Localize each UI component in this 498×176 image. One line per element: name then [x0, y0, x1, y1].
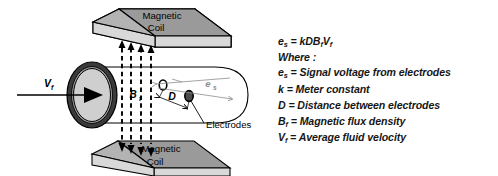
equation-rhs-tail: V [323, 35, 330, 47]
legend-definition-bf: = Magnetic flux density [291, 115, 406, 127]
legend-subscript-bf: f [286, 120, 288, 129]
magnetic-coil-top: Magnetic Coil [93, 9, 231, 47]
flux-density-symbol: B [129, 89, 136, 100]
legend-item-es: es = Signal voltage from electrodes [278, 65, 494, 81]
legend-subscript-es: s [284, 71, 288, 80]
coil-bottom-front-band [154, 168, 230, 176]
equation-equals: = [288, 35, 300, 47]
legend-item-bf: Bf = Magnetic flux density [278, 114, 494, 130]
coil-bottom-label-line1: Magnetic [142, 143, 181, 154]
electrodes-callout-label: Electrodes [206, 119, 252, 130]
legend-item-k: k = Meter constant [278, 82, 494, 98]
legend-definition-es: = Signal voltage from electrodes [291, 66, 451, 78]
flux-arrow-up-3 [138, 44, 145, 52]
legend-symbol-vf: V [278, 131, 285, 143]
distance-symbol: D [168, 90, 176, 102]
coil-top-label-line2: Coil [148, 22, 165, 33]
equation-line: es = kDBfVf [278, 34, 494, 50]
magnetic-coil-bottom: Magnetic Coil [92, 141, 230, 176]
where-label: Where : [278, 50, 494, 65]
legend-symbol-d: D [278, 99, 286, 111]
signal-subscript: s [213, 84, 217, 91]
legend-definition-vf: = Average fluid velocity [290, 131, 406, 143]
equation-rhs-sub1: f [320, 40, 322, 49]
legend-subscript-vf: f [285, 136, 287, 145]
flux-arrow-up-1 [119, 40, 126, 48]
legend-item-vf: Vf = Average fluid velocity [278, 130, 494, 146]
signal-symbol: e [205, 78, 211, 89]
legend-symbol-es: e [278, 66, 284, 78]
legend-symbol-bf: B [278, 115, 286, 127]
flux-arrow-up-2 [128, 42, 135, 50]
legend-definition-d: = Distance between electrodes [288, 99, 440, 111]
legend-item-d: D = Distance between electrodes [278, 98, 494, 114]
velocity-subscript: f [51, 84, 54, 91]
legend-definition-k: = Meter constant [287, 83, 370, 95]
formula-legend-block: es = kDBfVf Where : es = Signal voltage … [278, 34, 494, 146]
equation-lhs-symbol: e [278, 35, 284, 47]
coil-top-label-line1: Magnetic [143, 10, 182, 21]
legend-symbol-k: k [278, 83, 284, 95]
equation-lhs-subscript: s [284, 40, 288, 49]
equation-rhs-sub2: f [330, 40, 332, 49]
coil-top-edge-band [155, 36, 231, 47]
coil-bottom-label-line2: Coil [147, 156, 164, 167]
equation-rhs: kDB [299, 35, 320, 47]
